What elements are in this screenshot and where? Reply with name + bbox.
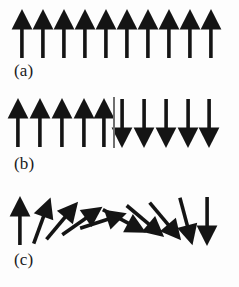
panel-c-spin-row <box>0 195 239 247</box>
spin-arrow-glyph <box>190 195 224 247</box>
panel-c: (c) <box>0 0 239 287</box>
spin-arrow <box>190 195 224 247</box>
panel-c-label: (c) <box>14 251 33 268</box>
figure-domain-wall-diagram: (a)(b)(c) <box>0 0 239 287</box>
